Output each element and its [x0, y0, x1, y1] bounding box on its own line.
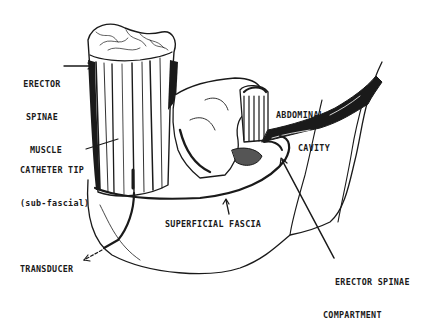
label-transducer: TRANSDUCER: [20, 264, 73, 275]
catheter: [104, 193, 134, 248]
label-superficial-fascia: SUPERFICIAL FASCIA: [165, 219, 261, 230]
label-line: (sub-fascial): [20, 198, 89, 209]
label-line: CAVITY: [276, 143, 330, 154]
label-line: COMPARTMENT: [323, 310, 410, 321]
label-line: ERECTOR: [20, 79, 64, 90]
label-line: ERECTOR SPINAE: [323, 277, 410, 288]
label-line: ABDOMINAL: [276, 110, 330, 121]
label-line: SPINAE: [20, 112, 64, 123]
label-abdominal-cavity: ABDOMINAL CAVITY: [276, 88, 330, 176]
label-erector-spinae-compartment: ERECTOR SPINAE COMPARTMENT: [323, 255, 410, 322]
label-catheter-tip: CATHETER TIP (sub-fascial): [20, 143, 89, 231]
label-line: CATHETER TIP: [20, 165, 89, 176]
